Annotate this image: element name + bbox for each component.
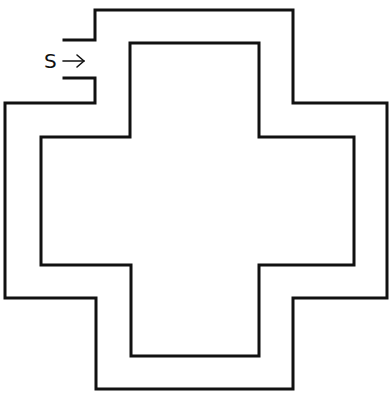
start-label: S <box>44 49 57 73</box>
start-arrow-icon <box>63 55 84 67</box>
inner-wall <box>41 43 354 356</box>
outer-wall <box>5 10 387 389</box>
cross-corridor-diagram: S <box>0 0 389 396</box>
